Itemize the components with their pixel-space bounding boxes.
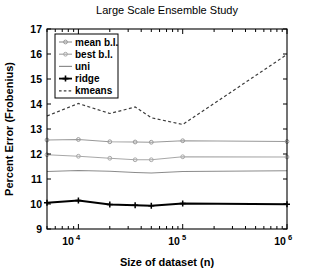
y-tick-label-11: 11 xyxy=(31,173,42,185)
chart-legend[interactable]: mean b.l.best b.l.uniridgekmeans xyxy=(55,34,119,98)
x-tick-base-1e5: 10 xyxy=(168,235,180,247)
legend-label-1: best b.l. xyxy=(75,49,113,60)
x-axis-title: Size of dataset (n) xyxy=(120,256,214,268)
y-tick-label-17: 17 xyxy=(30,23,42,35)
x-tick-label-1e6: 10 6 xyxy=(274,233,292,247)
y-tick-label-15: 15 xyxy=(30,73,42,85)
x-tick-exponent-1e4: 4 xyxy=(76,233,81,242)
y-tick-label-13: 13 xyxy=(30,123,42,135)
legend-label-4: kmeans xyxy=(75,85,113,96)
y-tick-label-12: 12 xyxy=(30,148,42,160)
y-tick-labels: 17 16 15 14 13 12 11 10 9 xyxy=(30,23,42,235)
x-tick-label-1e5: 10 5 xyxy=(168,233,186,247)
y-tick-label-14: 14 xyxy=(30,98,42,110)
x-tick-labels: 10 4 10 5 10 6 xyxy=(62,233,292,247)
chart-figure: Large Scale Ensemble Study Percent Error… xyxy=(0,0,309,274)
y-tick-label-16: 16 xyxy=(30,48,42,60)
x-tick-exponent-1e5: 5 xyxy=(182,233,186,242)
legend-label-0: mean b.l. xyxy=(75,37,119,48)
legend-label-3: ridge xyxy=(75,73,100,84)
x-tick-base-1e4: 10 xyxy=(62,235,74,247)
x-tick-exponent-1e6: 6 xyxy=(288,233,292,242)
y-tick-label-10: 10 xyxy=(30,198,42,210)
ensemble-study-line-chart: Large Scale Ensemble Study Percent Error… xyxy=(0,0,309,274)
x-tick-base-1e6: 10 xyxy=(274,235,286,247)
y-axis-title: Percent Error (Frobenius) xyxy=(3,62,15,196)
x-tick-label-1e4: 10 4 xyxy=(62,233,81,247)
chart-title: Large Scale Ensemble Study xyxy=(96,4,238,16)
legend-label-2: uni xyxy=(75,61,90,72)
y-tick-label-9: 9 xyxy=(36,223,42,235)
